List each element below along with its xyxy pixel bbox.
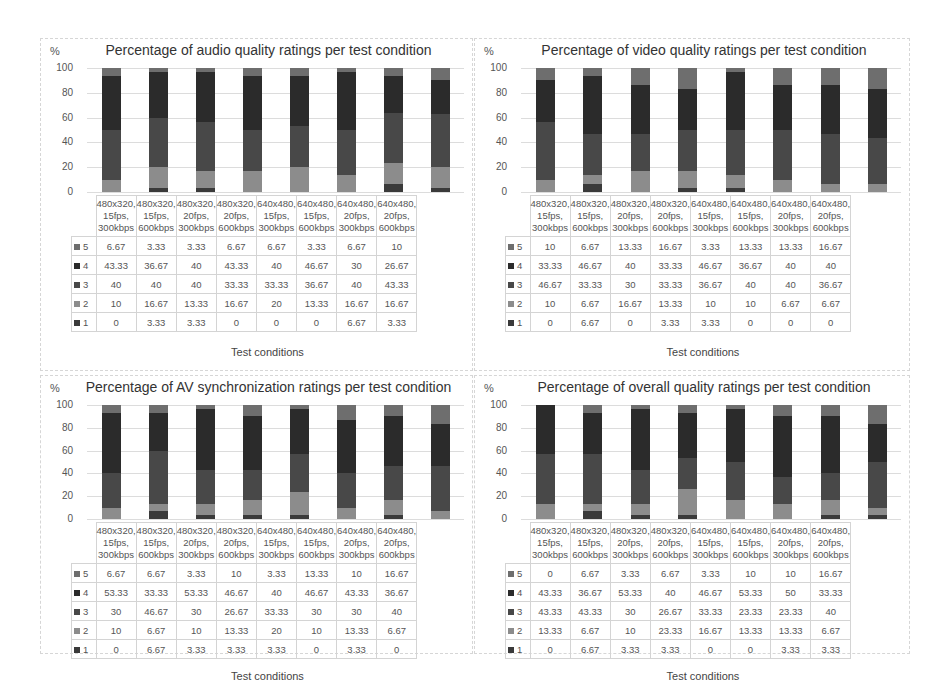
table-cell: 3.33	[811, 640, 851, 659]
table-cell: 10	[530, 294, 570, 313]
bar-segment-rating-4	[243, 76, 262, 130]
stacked-bar	[431, 68, 450, 192]
table-row: 2106.671013.33201013.336.67	[72, 621, 417, 640]
table-cell: 46.67	[136, 602, 176, 621]
bar-segment-rating-4	[536, 80, 555, 121]
stacked-bar	[536, 405, 555, 519]
table-row: 433.3346.674033.3346.6736.674040	[506, 256, 851, 275]
table-cell: 16.67	[811, 564, 851, 583]
bar-segment-rating-4	[583, 76, 602, 134]
table-cell: 36.67	[811, 275, 851, 294]
bar-segment-rating-3	[102, 473, 121, 507]
bar-segment-rating-3	[149, 451, 168, 504]
table-cell: 6.67	[650, 564, 690, 583]
table-cell: 3.33	[337, 640, 377, 659]
gridline	[521, 192, 901, 193]
table-cell: 6.67	[256, 237, 296, 256]
chart-title: Percentage of video quality ratings per …	[505, 42, 903, 58]
bar-segment-rating-4	[821, 416, 840, 473]
legend-key-4: 4	[72, 256, 97, 275]
table-cell: 30	[176, 602, 216, 621]
table-cell: 40	[811, 256, 851, 275]
stacked-bar	[536, 68, 555, 192]
table-row: 340404033.3333.3336.674043.33	[72, 275, 417, 294]
table-cell: 30	[296, 602, 336, 621]
table-cell: 0	[530, 564, 570, 583]
legend-marker-icon	[508, 244, 514, 250]
table-cell: 46.67	[690, 583, 730, 602]
legend-key-2: 2	[72, 294, 97, 313]
stacked-bar	[631, 68, 650, 192]
legend-key-3: 3	[72, 602, 97, 621]
table-cell: 43.33	[216, 256, 256, 275]
category-label: 640x480,15fps,600kbps	[730, 523, 770, 564]
bar-segment-rating-2	[431, 167, 450, 188]
table-cell: 6.67	[570, 313, 610, 332]
legend-marker-icon	[74, 571, 80, 577]
stacked-bar	[196, 405, 215, 519]
table-cell: 30	[96, 602, 136, 621]
bar-segment-rating-4	[726, 409, 745, 462]
bar-segment-rating-3	[337, 473, 356, 507]
bar-segment-rating-5	[243, 68, 262, 76]
table-cell: 33.33	[256, 602, 296, 621]
legend-marker-icon	[74, 647, 80, 653]
table-cell: 40	[650, 583, 690, 602]
bar-segment-rating-4	[631, 85, 650, 135]
category-label: 480x320,15fps,600kbps	[136, 196, 176, 237]
bar-segment-rating-2	[631, 171, 650, 192]
table-row: 2106.6716.6713.3310106.676.67	[506, 294, 851, 313]
bar-segment-rating-3	[773, 130, 792, 180]
stacked-bar	[337, 68, 356, 192]
stacked-bar	[102, 68, 121, 192]
y-tick-label: 100	[47, 399, 73, 410]
bar-segment-rating-5	[773, 405, 792, 416]
table-cell: 43.33	[377, 275, 417, 294]
bar-segment-rating-3	[868, 138, 887, 183]
chart-title: Percentage of audio quality ratings per …	[71, 42, 466, 58]
bar-segment-rating-2	[583, 504, 602, 512]
y-tick-label: 60	[47, 112, 73, 123]
table-cell: 16.67	[216, 294, 256, 313]
x-axis-title: Test conditions	[71, 346, 464, 358]
table-cell: 43.33	[530, 583, 570, 602]
bar-segment-rating-3	[583, 134, 602, 175]
table-cell: 46.67	[296, 583, 336, 602]
table-cell: 36.67	[136, 256, 176, 275]
table-row: 21016.6713.3316.672013.3316.6716.67	[72, 294, 417, 313]
table-cell: 0	[296, 313, 336, 332]
category-label: 480x320,20fps,600kbps	[216, 196, 256, 237]
stacked-bar	[583, 68, 602, 192]
table-cell: 10	[176, 621, 216, 640]
table-cell: 30	[610, 602, 650, 621]
bar-segment-rating-5	[243, 405, 262, 416]
table-cell: 33.33	[570, 275, 610, 294]
table-cell: 16.67	[136, 294, 176, 313]
legend-marker-icon	[508, 282, 514, 288]
data-table: 480x320,15fps,300kbps480x320,15fps,600kb…	[505, 522, 851, 659]
table-cell: 6.67	[96, 237, 136, 256]
y-tick-label: 80	[47, 87, 73, 98]
gridline	[87, 519, 464, 520]
bar-segment-rating-4	[868, 89, 887, 139]
stacked-bar	[868, 68, 887, 192]
category-label: 480x320,20fps,600kbps	[650, 523, 690, 564]
category-label: 640x480,20fps,300kbps	[771, 196, 811, 237]
bar-segment-rating-2	[583, 175, 602, 183]
table-cell: 16.67	[377, 564, 417, 583]
stacked-bar	[821, 68, 840, 192]
table-cell: 13.33	[610, 237, 650, 256]
table-cell: 40	[811, 602, 851, 621]
table-cell: 33.33	[136, 583, 176, 602]
bar-segment-rating-5	[631, 68, 650, 85]
stacked-bar	[384, 405, 403, 519]
y-tick-label: 0	[47, 513, 73, 524]
category-label: 480x320,20fps,300kbps	[176, 523, 216, 564]
table-cell: 13.33	[730, 237, 770, 256]
table-cell: 3.33	[377, 313, 417, 332]
table-cell: 23.33	[771, 602, 811, 621]
y-tick-label: 40	[481, 467, 507, 478]
table-cell: 10	[730, 294, 770, 313]
y-axis-unit-label: %	[484, 382, 494, 394]
bar-segment-rating-2	[384, 500, 403, 515]
